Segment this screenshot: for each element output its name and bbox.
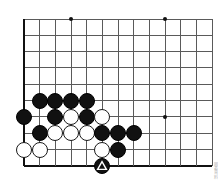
stone-black-c5r9[interactable] [94,158,110,174]
stone-black-c7r7[interactable] [126,125,142,141]
stone-black-c1r7[interactable] [32,125,48,141]
stone-black-c5r7[interactable] [94,125,110,141]
grid-line-vertical-9 [165,19,166,166]
stone-white-c4r7[interactable] [79,125,95,141]
stone-white-c0r8[interactable] [16,142,32,158]
stone-black-c1r5[interactable] [32,93,48,109]
stone-white-c5r8[interactable] [94,142,110,158]
credit-watermark: 囲碁資料 [212,162,218,179]
stone-black-c6r8[interactable] [110,142,126,158]
grid-line-vertical-10 [180,19,181,166]
star-point-0 [69,17,73,21]
go-board[interactable] [0,0,219,183]
grid-line-vertical-7 [133,19,134,166]
stone-white-c2r7[interactable] [47,125,63,141]
stone-black-c2r6[interactable] [47,109,63,125]
grid-line-vertical-11 [196,19,197,166]
stone-black-c0r6[interactable] [16,109,32,125]
stone-white-c1r8[interactable] [32,142,48,158]
star-point-2 [163,115,167,119]
stone-white-c5r6[interactable] [94,109,110,125]
grid-line-vertical-8 [149,19,150,166]
stone-white-c3r6[interactable] [63,109,79,125]
star-point-1 [163,17,167,21]
stone-black-c3r5[interactable] [63,93,79,109]
grid-line-vertical-12 [212,19,213,166]
go-diagram-figure: 囲碁資料 [0,0,219,183]
stone-white-c3r7[interactable] [63,125,79,141]
stone-black-c2r5[interactable] [47,93,63,109]
stone-black-c4r5[interactable] [79,93,95,109]
stone-black-c4r6[interactable] [79,109,95,125]
stone-black-c6r7[interactable] [110,125,126,141]
